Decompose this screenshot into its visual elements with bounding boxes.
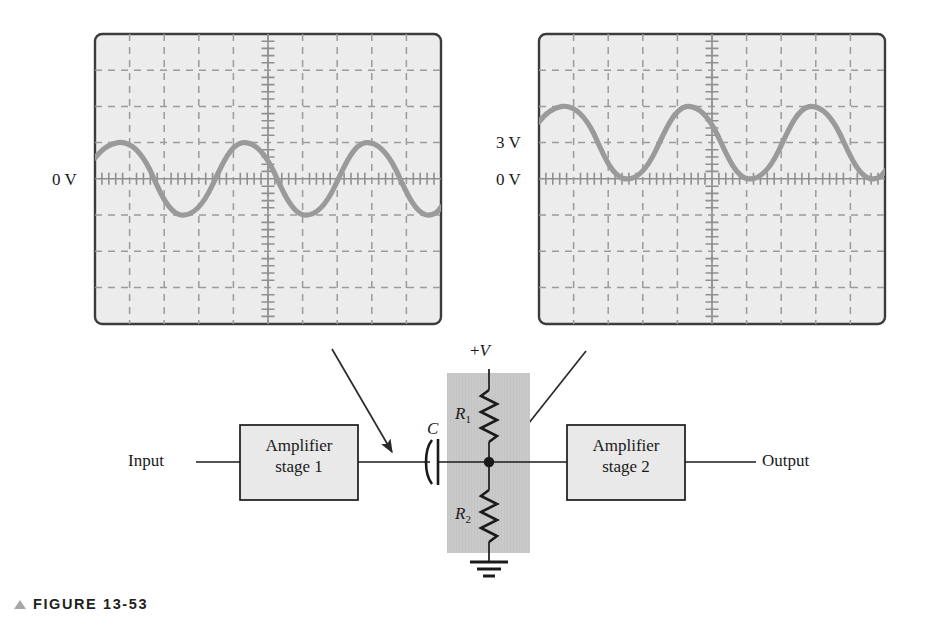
amplifier-stage-2-label: Amplifier stage 2: [567, 435, 685, 478]
figure-graphics: [0, 0, 935, 632]
scope-right: [539, 34, 885, 324]
figure-caption-text: FIGURE 13-53: [33, 596, 148, 612]
figure-canvas: 0 V 3 V 0 V Input Output Amplifier stage…: [0, 0, 935, 632]
resistor-r1-label: R1: [455, 405, 471, 425]
triangle-up-icon: [14, 600, 26, 609]
amplifier-stage-1-line1: Amplifier: [240, 435, 358, 456]
resistor-r1-symbol-text: R: [455, 404, 465, 423]
resistor-r1-subscript: 1: [465, 413, 471, 425]
amplifier-stage-2-line1: Amplifier: [567, 435, 685, 456]
resistor-r2-subscript: 2: [465, 513, 471, 525]
resistor-r2-symbol-text: R: [455, 504, 465, 523]
amplifier-stage-2-line2: stage 2: [567, 456, 685, 477]
resistor-r2-label: R2: [455, 505, 471, 525]
ground-icon: [470, 562, 508, 576]
scope-left-zero-label: 0 V: [52, 171, 77, 188]
supply-label: +V: [470, 342, 490, 359]
amplifier-stage-1-line2: stage 1: [240, 456, 358, 477]
scope-right-offset-label: 3 V: [496, 134, 521, 151]
supply-sign: +: [470, 341, 480, 360]
supply-variable: V: [480, 341, 490, 360]
amplifier-stage-1-label: Amplifier stage 1: [240, 435, 358, 478]
scope-left: [95, 34, 441, 324]
figure-caption: FIGURE 13-53: [14, 596, 148, 612]
output-label: Output: [762, 452, 809, 469]
capacitor-label: C: [427, 420, 438, 437]
scope-right-zero-label: 0 V: [496, 171, 521, 188]
input-label: Input: [128, 452, 164, 469]
